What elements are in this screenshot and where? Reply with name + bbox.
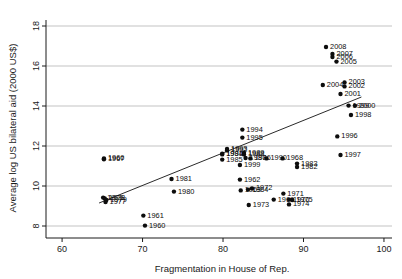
data-point [349,113,353,117]
x-tick-label: 80 [218,244,228,254]
data-point-label: 2004 [327,80,343,89]
data-point [239,188,243,192]
data-point [143,223,147,227]
y-tick-label: 16 [31,61,41,71]
data-point-label: 1995 [246,133,262,142]
data-point-label: 1962 [244,175,260,184]
data-point-label: 1982 [301,162,317,171]
data-point [220,152,224,156]
data-point-label: 1997 [345,150,361,159]
data-point-label: 1985 [226,155,242,164]
data-point-label: 2005 [340,57,356,66]
data-point-label: 1999 [244,160,260,169]
data-point-label: 1981 [176,174,192,183]
y-tick-labels: 81012141618 [31,21,41,229]
y-tick-label: 18 [31,21,41,31]
x-tick-label: 60 [57,244,67,254]
scatter-plot-figure: 60708090100 81012141618 2008200720062005… [0,0,402,279]
data-point [338,92,342,96]
x-tick-label: 70 [138,244,148,254]
data-point [338,153,342,157]
data-point-label: 1969 [278,195,294,204]
data-point-label: 1973 [253,200,269,209]
x-axis-title: Fragmentation in House of Rep. [155,263,290,274]
y-tick-label: 14 [31,101,41,111]
data-point-label: 1972 [256,183,272,192]
data-point [324,45,328,49]
data-point [172,189,176,193]
data-point [141,213,145,217]
data-point [247,203,251,207]
data-point [169,177,173,181]
data-point-label: 2001 [345,89,361,98]
y-axis-title: Average log US bilateral aid (2000 US$) [7,44,18,213]
data-point [238,177,242,181]
data-point-label: 2000 [359,101,375,110]
y-tick-label: 12 [31,141,41,151]
data-point [335,134,339,138]
y-tick-label: 8 [31,223,41,228]
data-point [240,127,244,131]
x-tick-label: 100 [376,244,391,254]
data-point-label: 1961 [147,211,163,220]
data-point-label: 1967 [108,154,124,163]
data-point-label: 1960 [149,221,165,230]
data-point-label: 1974 [293,199,309,208]
x-tick-label: 90 [298,244,308,254]
x-tick-labels: 60708090100 [57,244,391,254]
data-point [346,103,350,107]
data-point-label: 1996 [341,131,357,140]
data-point [272,197,276,201]
data-point [295,165,299,169]
data-point [102,157,106,161]
data-point [240,135,244,139]
data-point [220,157,224,161]
data-point-label: 1990 [270,153,286,162]
data-point [321,83,325,87]
data-point-label: 1998 [355,110,371,119]
data-point-label: 1977 [110,197,126,206]
y-tick-label: 10 [31,181,41,191]
data-point-label: 1980 [178,187,194,196]
plot-canvas: 60708090100 81012141618 2008200720062005… [0,0,402,279]
data-point [330,55,334,59]
data-points [101,45,357,228]
